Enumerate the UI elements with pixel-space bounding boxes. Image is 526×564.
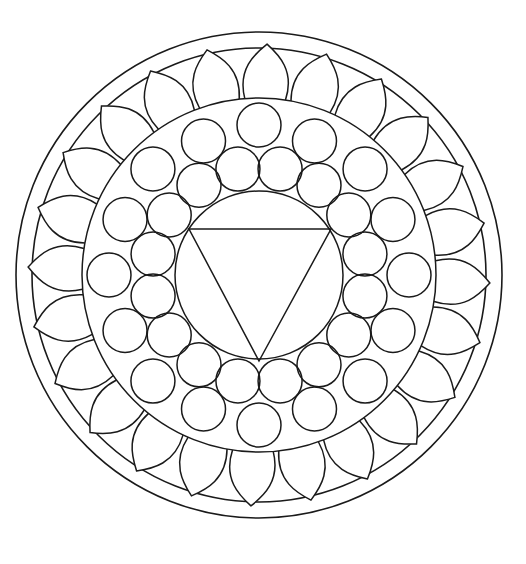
center-circle [175,191,343,359]
mandala-svg [0,0,526,564]
mandala-drawing [0,0,526,564]
center-circle-with-triangle [175,191,343,361]
